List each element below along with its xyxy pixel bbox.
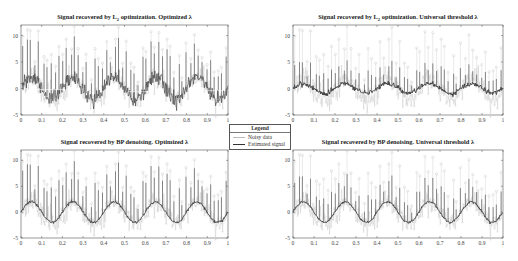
x-tick-label: 0.3 [80, 117, 87, 123]
x-tick-label: 0.2 [59, 240, 66, 246]
chart-plot: -5051000.10.20.30.40.50.60.70.80.91 [259, 130, 518, 261]
x-tick-label: 0.4 [100, 117, 107, 123]
chart-panel-bp-optimized: Signal recovered by BP denoising. Optimi… [0, 130, 259, 261]
y-tick-label: 5 [287, 183, 290, 189]
chart-legend: Legend Noisy data Estimated signal [229, 124, 291, 150]
y-tick-label: 0 [287, 86, 290, 92]
chart-panel-bp-universal: Signal recovered by BP denoising. Univer… [259, 130, 518, 261]
plot-frame [293, 25, 503, 115]
x-tick-label: 0 [292, 240, 295, 246]
y-tick-label: 5 [15, 59, 18, 65]
y-tick-label: 0 [15, 86, 18, 92]
chart-panel-l2-optimized: Signal recovered by L2 optimization. Opt… [0, 0, 259, 130]
plot-frame [21, 25, 228, 115]
x-tick-label: 0.8 [458, 240, 465, 246]
x-tick-label: 0 [292, 117, 295, 123]
x-tick-label: 0.4 [374, 240, 381, 246]
x-tick-label: 0.5 [121, 117, 128, 123]
x-tick-label: 0 [20, 240, 23, 246]
x-tick-label: 1 [502, 117, 505, 123]
x-tick-label: 0.1 [38, 117, 45, 123]
x-tick-label: 0.1 [38, 240, 45, 246]
x-tick-label: 1 [502, 240, 505, 246]
x-tick-label: 0.3 [353, 117, 360, 123]
y-tick-label: -5 [13, 235, 18, 241]
estimated-signal-line [293, 201, 503, 224]
plot-frame [293, 150, 503, 238]
x-tick-label: 0.7 [437, 117, 444, 123]
y-tick-label: 10 [284, 157, 290, 163]
x-tick-label: 0.6 [142, 240, 149, 246]
y-tick-label: -5 [285, 235, 290, 241]
y-tick-label: 5 [287, 59, 290, 65]
x-tick-label: 0.3 [353, 240, 360, 246]
y-tick-label: 5 [15, 183, 18, 189]
legend-title: Legend [230, 125, 290, 133]
x-tick-label: 0.9 [479, 117, 486, 123]
y-tick-label: 0 [287, 209, 290, 215]
legend-swatch-noisy-icon [233, 137, 245, 138]
x-tick-label: 1 [227, 240, 230, 246]
x-tick-label: 0.5 [121, 240, 128, 246]
y-tick-label: -5 [13, 112, 18, 118]
x-tick-label: 0.9 [204, 117, 211, 123]
x-tick-label: 0.7 [437, 240, 444, 246]
x-tick-label: 0.4 [374, 117, 381, 123]
x-tick-label: 0.1 [311, 117, 318, 123]
legend-swatch-estimated-icon [233, 144, 245, 145]
x-tick-label: 0.3 [80, 240, 87, 246]
x-tick-label: 0.6 [142, 117, 149, 123]
x-tick-label: 0.2 [332, 117, 339, 123]
x-tick-label: 0 [20, 117, 23, 123]
y-tick-label: 10 [284, 33, 290, 39]
chart-plot: -5051000.10.20.30.40.50.60.70.80.91 [259, 0, 518, 130]
chart-panel-l2-universal: Signal recovered by L2 optimization. Uni… [259, 0, 518, 130]
y-tick-label: 0 [15, 209, 18, 215]
x-tick-label: 0.8 [183, 117, 190, 123]
x-tick-label: 0.4 [100, 240, 107, 246]
legend-item-estimated-signal: Estimated signal [230, 140, 290, 148]
y-tick-label: 10 [12, 157, 18, 163]
chart-plot: -5051000.10.20.30.40.50.60.70.80.91 [0, 130, 259, 261]
chart-plot: -5051000.10.20.30.40.50.60.70.80.91 [0, 0, 259, 130]
x-tick-label: 0.9 [479, 240, 486, 246]
x-tick-label: 0.1 [311, 240, 318, 246]
y-tick-label: 10 [12, 33, 18, 39]
x-tick-label: 0.7 [162, 117, 169, 123]
legend-label: Estimated signal [248, 141, 285, 147]
x-tick-label: 0.2 [59, 117, 66, 123]
x-tick-label: 0.9 [204, 240, 211, 246]
x-tick-label: 0.8 [458, 117, 465, 123]
x-tick-label: 0.6 [416, 240, 423, 246]
x-tick-label: 0.5 [395, 117, 402, 123]
x-tick-label: 0.8 [183, 240, 190, 246]
x-tick-label: 0.5 [395, 240, 402, 246]
x-tick-label: 0.7 [162, 240, 169, 246]
y-tick-label: -5 [285, 112, 290, 118]
plot-frame [21, 150, 228, 238]
x-tick-label: 0.6 [416, 117, 423, 123]
x-tick-label: 0.2 [332, 240, 339, 246]
x-tick-label: 1 [227, 117, 230, 123]
